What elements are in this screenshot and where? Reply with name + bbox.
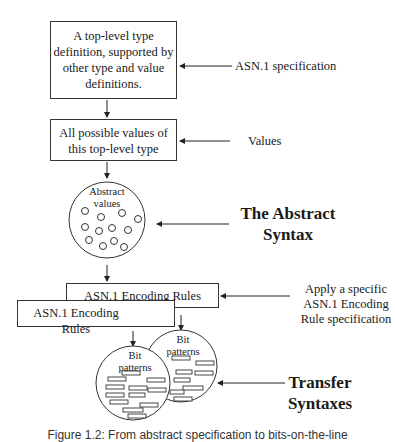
type-definition-text: A top-level type definition, supported b… [54,29,174,91]
all-values-box: All possible values of this top-level ty… [50,119,177,161]
bit-patterns-front-label: Bit patterns [112,350,158,374]
figure-caption: Figure 1.2: From abstract specification … [0,428,395,442]
values-label: Values [248,134,281,149]
abstract-syntax-label: The Abstract Syntax [238,203,338,245]
bit-patterns-back-label: Bit patterns [160,334,206,358]
transfer-syntaxes-label: Transfer Syntaxes [285,372,355,414]
abstract-values-label: Abstract values [77,186,137,210]
encoding-rules-box-front: ASN.1 Encoding Rules [17,300,175,327]
asn1-spec-label: ASN.1 specification [235,59,336,74]
type-definition-box: A top-level type definition, supported b… [50,21,177,99]
apply-rule-label: Apply a specific ASN.1 Encoding Rule spe… [298,282,394,327]
all-values-text: All possible values of this top-level ty… [59,126,168,156]
